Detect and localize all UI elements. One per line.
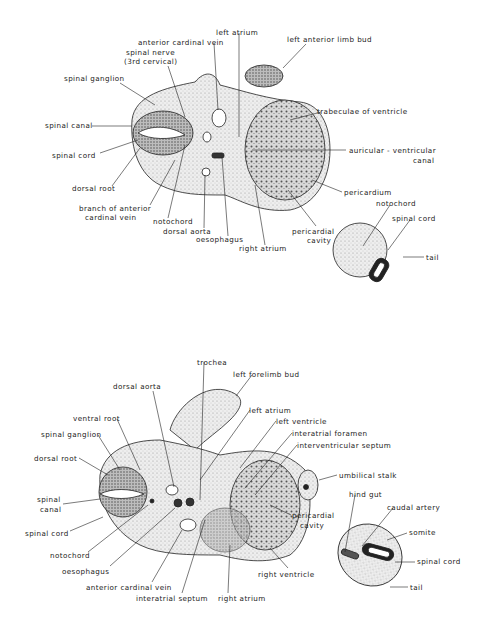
- label-left-atrium: left atrium: [216, 29, 258, 38]
- label-spinal: spinal: [37, 496, 61, 505]
- label-interatrial-foramen: interatrial foramen: [292, 430, 367, 439]
- label-cavity: cavity: [307, 237, 331, 246]
- label-left-atrium-lower: left atrium: [249, 407, 291, 416]
- label-ventral-root: ventral root: [73, 415, 120, 424]
- label-left-forelimb-bud: left forelimb bud: [233, 371, 299, 380]
- label-caudal-artery: caudal artery: [387, 504, 440, 513]
- label-dorsal-root-lower: dorsal root: [34, 455, 77, 464]
- label-dorsal-aorta-lower: dorsal aorta: [113, 383, 161, 392]
- label-auricular-ventricular: auricular - ventricular: [349, 147, 436, 156]
- label-notochord-lower: notochord: [50, 552, 90, 561]
- label-3rd-cervical: (3rd cervical): [124, 58, 177, 67]
- label-dorsal-root: dorsal root: [72, 185, 115, 194]
- label-oesophagus: oesophagus: [196, 236, 243, 245]
- label-right-ventricle: right ventricle: [258, 571, 315, 580]
- label-pericardium: pericardium: [344, 189, 392, 198]
- label-trabeculae-of-ventricle: trabeculae of ventricle: [317, 108, 408, 117]
- label-hind-gut: hind gut: [349, 491, 382, 500]
- label-interventricular-septum: interventricular septum: [297, 442, 391, 451]
- label-somite: somite: [409, 529, 436, 538]
- label-canal-lower: canal: [40, 506, 61, 515]
- label-left-ventricle: left ventricle: [276, 418, 327, 427]
- diagram-stage: left atrium anterior cardinal vein left …: [0, 0, 489, 629]
- label-pericardial-lower: pericardial: [292, 512, 334, 521]
- label-anterior-cardinal-vein-lower: anterior cardinal vein: [86, 584, 172, 593]
- label-spinal-canal: spinal canal: [45, 122, 93, 131]
- label-cavity-lower: cavity: [300, 522, 324, 531]
- label-anterior-cardinal-vein: anterior cardinal vein: [138, 39, 224, 48]
- label-spinal-cord: spinal cord: [52, 152, 96, 161]
- label-tail: tail: [426, 254, 439, 263]
- label-trochea: trochea: [197, 359, 227, 368]
- label-tail-lower: tail: [410, 584, 423, 593]
- label-right-atrium-lower: right atrium: [218, 595, 266, 604]
- label-umbilical-stalk: umbilical stalk: [339, 472, 397, 481]
- label-spinal-ganglion-lower: spinal ganglion: [41, 431, 102, 440]
- label-spinal-cord-lower: spinal cord: [25, 530, 69, 539]
- label-canal: canal: [413, 157, 434, 166]
- label-oesophagus-lower: oesophagus: [62, 568, 109, 577]
- label-tail-spinal-cord-lower: spinal cord: [417, 558, 461, 567]
- label-left-anterior-limb-bud: left anterior limb bud: [287, 36, 372, 45]
- label-notochord: notochord: [153, 218, 193, 227]
- label-cardinal-vein: cardinal vein: [85, 214, 136, 223]
- label-interatrial-septum: interatrial septum: [136, 595, 208, 604]
- label-tail-spinal-cord: spinal cord: [392, 215, 436, 224]
- label-spinal-ganglion: spinal ganglion: [64, 75, 125, 84]
- label-right-atrium: right atrium: [239, 245, 287, 254]
- label-tail-notochord: notochord: [376, 200, 416, 209]
